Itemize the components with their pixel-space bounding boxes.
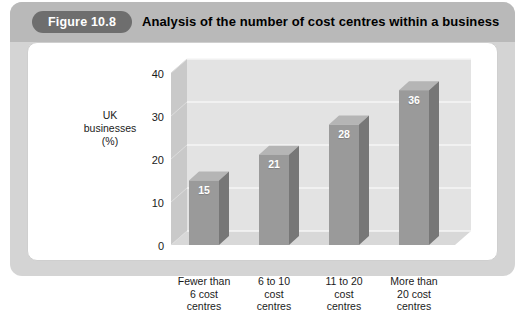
y-tick-label-0: 0: [138, 240, 164, 252]
x-category-label-4-line-2: 20 cost: [373, 288, 455, 301]
figure-panel: Figure 10.8 Analysis of the number of co…: [10, 2, 515, 276]
bar-fewer-than-6-cost-centres: [189, 172, 229, 246]
y-tick-label-20: 20: [138, 154, 164, 166]
y-tick-label-40: 40: [138, 68, 164, 80]
bar-side-face: [429, 81, 439, 245]
figure-header: Figure 10.8 Analysis of the number of co…: [10, 2, 515, 42]
y-axis-title-line-2: businesses: [68, 122, 152, 135]
bar-front-face: [399, 90, 429, 245]
x-category-label-4-line-1: More than: [373, 275, 455, 288]
bar-value-label-4: 36: [399, 94, 429, 106]
bar-value-label-2: 21: [259, 158, 289, 170]
bar-value-label-1: 15: [189, 184, 219, 196]
bar-chart: UK businesses (%) 40 30 20 10 0: [28, 43, 499, 262]
chart-panel: UK businesses (%) 40 30 20 10 0: [27, 42, 498, 261]
bar-side-face: [289, 146, 299, 245]
bar-front-face: [329, 125, 359, 245]
bar-value-label-3: 28: [329, 128, 359, 140]
figure-title: Analysis of the number of cost centres w…: [142, 14, 499, 29]
y-axis-title-line-3: (%): [68, 135, 152, 148]
x-category-label-4-line-3: centres: [373, 300, 455, 313]
plot-svg: [171, 55, 471, 265]
x-category-label-4: More than 20 cost centres: [373, 275, 455, 313]
bar-side-face: [359, 116, 369, 245]
plot-area: 15 21 28 36 Fewer than 6 cost centres 6 …: [171, 55, 471, 245]
y-tick-label-30: 30: [138, 111, 164, 123]
figure-number-badge: Figure 10.8: [32, 11, 132, 33]
bar-side-face: [219, 172, 229, 246]
y-tick-label-10: 10: [138, 197, 164, 209]
